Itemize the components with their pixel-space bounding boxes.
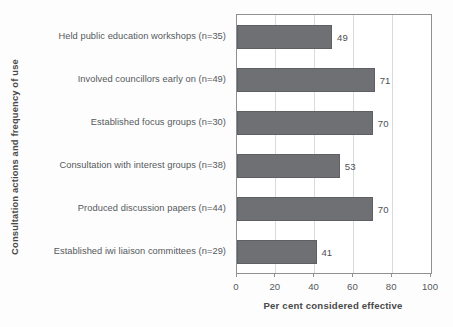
plot-area: 497170537041 — [236, 14, 432, 274]
x-axis-tick-mark — [430, 273, 431, 277]
y-axis-title-container: Consultation actions and frequency of us… — [4, 18, 24, 296]
x-axis-tick-label: 20 — [269, 281, 280, 292]
bar-value-label: 41 — [322, 246, 333, 257]
bar-value-label: 70 — [378, 117, 389, 128]
bar — [237, 154, 340, 178]
gridline — [392, 15, 393, 273]
x-axis-tick-label: 0 — [233, 281, 238, 292]
y-axis-category-labels: Held public education workshops (n=35)In… — [24, 14, 230, 272]
x-axis-tick-mark — [352, 273, 353, 277]
bar — [237, 111, 373, 135]
x-axis-tick-label: 80 — [386, 281, 397, 292]
x-axis-tick-label: 40 — [308, 281, 319, 292]
x-axis-tick-label: 100 — [422, 281, 438, 292]
x-axis-tick-mark — [274, 273, 275, 277]
category-label: Produced discussion papers (n=44) — [78, 203, 226, 213]
x-axis-tick-mark — [313, 273, 314, 277]
x-axis-tick-mark — [236, 273, 237, 277]
bar-value-label: 53 — [345, 160, 356, 171]
y-axis-title: Consultation actions and frequency of us… — [9, 59, 20, 255]
gridline — [353, 15, 354, 273]
category-label: Consultation with interest groups (n=38) — [59, 160, 226, 170]
bar — [237, 68, 375, 92]
category-label: Established focus groups (n=30) — [91, 117, 226, 127]
x-axis-tick-label: 60 — [347, 281, 358, 292]
chart-figure: Consultation actions and frequency of us… — [0, 0, 453, 327]
bar — [237, 25, 332, 49]
bar-value-label: 71 — [380, 74, 391, 85]
category-label: Held public education workshops (n=35) — [58, 31, 226, 41]
bar — [237, 240, 317, 264]
category-label: Involved councillors early on (n=49) — [78, 74, 226, 84]
gridline — [314, 15, 315, 273]
bar-value-label: 70 — [378, 203, 389, 214]
gridline — [275, 15, 276, 273]
bar — [237, 197, 373, 221]
x-axis-title: Per cent considered effective — [236, 300, 430, 311]
category-label: Established iwi liaison committees (n=29… — [54, 246, 226, 256]
bar-value-label: 49 — [337, 31, 348, 42]
x-axis-tick-mark — [391, 273, 392, 277]
